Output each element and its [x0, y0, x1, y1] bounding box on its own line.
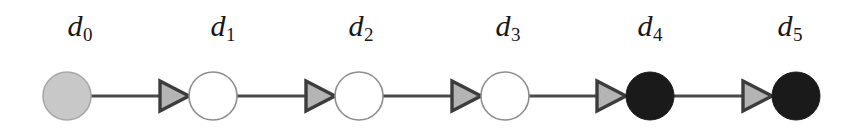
node-label-subscript: 0	[83, 25, 93, 46]
edge-arrowhead	[452, 81, 481, 111]
node-label-subscript: 4	[653, 25, 663, 46]
node-label-subscript: 1	[226, 25, 236, 46]
edge-d1-to-d2	[237, 81, 335, 111]
node-label-d1: d1	[211, 11, 236, 44]
graph-diagram: d0d1d2d3d4d5	[0, 0, 844, 136]
edge-d2-to-d3	[383, 81, 481, 111]
node-circle-d2[interactable]	[335, 72, 383, 120]
node-label-d3: d3	[496, 11, 521, 44]
node-label-d4: d4	[638, 11, 663, 44]
node-circle-d5[interactable]	[772, 72, 820, 120]
edge-arrowhead	[306, 81, 335, 111]
edge-d3-to-d4	[529, 81, 626, 111]
edge-arrowhead	[743, 81, 772, 111]
node-label-subscript: 5	[793, 25, 803, 46]
node-label-letter: d	[496, 9, 511, 42]
edge-d4-to-d5	[674, 81, 772, 111]
node-label-letter: d	[778, 9, 793, 42]
node-label-subscript: 2	[364, 25, 374, 46]
node-circle-d0[interactable]	[43, 72, 91, 120]
node-circle-d1[interactable]	[189, 72, 237, 120]
edge-d0-to-d1	[91, 81, 189, 111]
node-label-letter: d	[349, 9, 364, 42]
edge-arrowhead	[597, 81, 626, 111]
node-label-subscript: 3	[511, 25, 521, 46]
node-label-d5: d5	[778, 11, 803, 44]
node-label-letter: d	[638, 9, 653, 42]
node-label-d2: d2	[349, 11, 374, 44]
graph-canvas	[0, 0, 844, 136]
edge-arrowhead	[160, 81, 189, 111]
node-circle-d3[interactable]	[481, 72, 529, 120]
node-label-letter: d	[68, 9, 83, 42]
node-circle-d4[interactable]	[626, 72, 674, 120]
node-label-d0: d0	[68, 11, 93, 44]
node-label-letter: d	[211, 9, 226, 42]
